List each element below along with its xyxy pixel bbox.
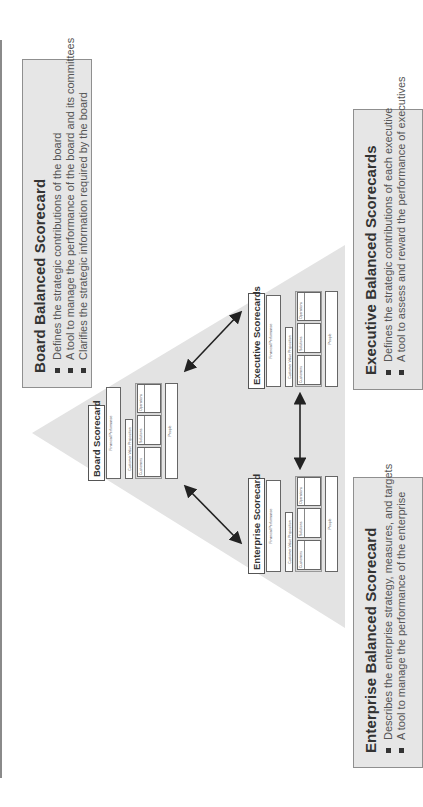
operations-cell: Operations <box>137 384 161 413</box>
executive-box-bullets: Defines the strategic contributions of e… <box>382 120 408 375</box>
people-bar: People <box>325 291 338 387</box>
card-title: Board Scorecard <box>88 405 105 481</box>
bullet-icon <box>81 368 86 373</box>
enterprise-balanced-scorecard-box: Enterprise Balanced Scorecard Describes … <box>353 477 423 768</box>
bullet-icon <box>399 748 404 753</box>
executive-balanced-scorecards-box: Executive Balanced Scorecards Defines th… <box>353 109 423 390</box>
customers-cell: Customers <box>297 540 321 570</box>
board-bullet: Defines the strategic contributions of t… <box>51 70 64 373</box>
board-balanced-scorecard-box: Board Balanced Scorecard Defines the str… <box>22 59 92 388</box>
board-scorecard-card: Board Scorecard Financial Performance Cu… <box>88 361 182 481</box>
enterprise-box-title: Enterprise Balanced Scorecard <box>362 488 379 753</box>
enterprise-scorecard-card: Enterprise Scorecard Financial Performan… <box>248 454 342 574</box>
board-box-title: Board Balanced Scorecard <box>31 70 48 373</box>
customers-cell: Customers <box>137 447 161 477</box>
enterprise-bullet: Describes the enterprise strategy, measu… <box>382 488 395 753</box>
financial-performance-bar: Financial Performance <box>266 295 281 387</box>
customer-value-proposition-bar: Customer Value Proposition <box>285 327 293 387</box>
card-title: Enterprise Scorecard <box>248 478 265 574</box>
process-group: Customers Solutions Operations <box>295 291 322 387</box>
bullet-icon <box>55 368 60 373</box>
board-bullet: A tool to manage the performance of the … <box>64 70 77 373</box>
bullet-icon <box>399 370 404 375</box>
financial-performance-bar: Financial Performance <box>266 480 281 572</box>
operations-cell: Operations <box>297 477 321 506</box>
people-bar: People <box>325 476 338 572</box>
bullet-icon <box>386 748 391 753</box>
operations-cell: Operations <box>297 292 321 321</box>
executive-scorecards-card: Executive Scorecards Financial Performan… <box>248 269 342 389</box>
customer-value-proposition-bar: Customer Value Proposition <box>125 419 133 479</box>
solutions-cell: Solutions <box>297 508 321 538</box>
solutions-cell: Solutions <box>297 323 321 353</box>
enterprise-bullet: A tool to manage the performance of the … <box>395 488 408 753</box>
executive-box-title: Executive Balanced Scorecards <box>362 120 379 375</box>
people-bar: People <box>165 383 178 479</box>
card-title: Executive Scorecards <box>248 293 265 389</box>
solutions-cell: Solutions <box>137 415 161 445</box>
customers-cell: Customers <box>297 355 321 385</box>
bullet-icon <box>68 368 73 373</box>
executive-bullet: Defines the strategic contributions of e… <box>382 120 395 375</box>
bullet-icon <box>386 370 391 375</box>
board-bullet: Clarifies the strategic information requ… <box>77 70 90 373</box>
enterprise-box-bullets: Describes the enterprise strategy, measu… <box>382 488 408 753</box>
board-box-bullets: Defines the strategic contributions of t… <box>51 70 90 373</box>
process-group: Customers Solutions Operations <box>295 476 322 572</box>
customer-value-proposition-bar: Customer Value Proposition <box>285 512 293 572</box>
executive-bullet: A tool to assess and reward the performa… <box>395 120 408 375</box>
process-group: Customers Solutions Operations <box>135 383 162 479</box>
financial-performance-bar: Financial Performance <box>106 387 121 479</box>
